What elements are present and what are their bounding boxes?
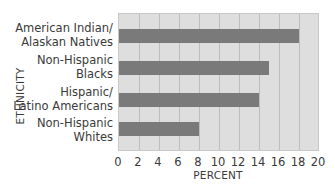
x-tick-label: 6: [174, 155, 181, 169]
x-tick-label: 8: [194, 155, 201, 169]
x-tick-label: 18: [291, 155, 306, 169]
category-label-hispanic-latino: Hispanic/ Latino Americans: [13, 85, 113, 113]
x-tick-label: 16: [271, 155, 286, 169]
horizontal-bar-chart: ETHNICITY American Indian/ Alaskan Nativ…: [0, 0, 335, 188]
category-label-line: Blacks: [37, 67, 113, 81]
x-tick-label: 14: [251, 155, 266, 169]
x-tick-label: 20: [311, 155, 326, 169]
x-tick-label: 2: [134, 155, 141, 169]
bar: [119, 93, 259, 107]
x-tick-label: 4: [154, 155, 161, 169]
bar: [119, 29, 299, 43]
category-label-line: Whites: [37, 130, 113, 144]
x-tick-label: 0: [114, 155, 121, 169]
category-label-line: Non-Hispanic: [37, 116, 113, 130]
category-label-non-hispanic-blacks: Non-Hispanic Blacks: [37, 53, 113, 81]
x-tick-label: 12: [231, 155, 246, 169]
category-label-non-hispanic-whites: Non-Hispanic Whites: [37, 116, 113, 144]
x-axis-label: PERCENT: [193, 169, 242, 181]
category-label-american-indian: American Indian/ Alaskan Natives: [15, 21, 113, 49]
bar: [119, 61, 269, 75]
category-label-line: Hispanic/: [13, 85, 113, 99]
gridline: [299, 14, 300, 150]
category-label-line: Latino Americans: [13, 99, 113, 113]
plot-area: [118, 13, 319, 151]
x-tick-label: 10: [211, 155, 226, 169]
category-label-line: Non-Hispanic: [37, 53, 113, 67]
bar: [119, 122, 199, 136]
category-label-line: American Indian/: [15, 21, 113, 35]
category-label-line: Alaskan Natives: [15, 35, 113, 49]
